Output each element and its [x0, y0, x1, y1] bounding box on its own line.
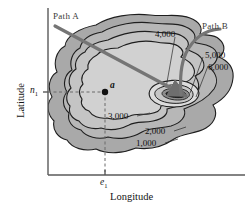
x-axis-title: Longitude [110, 192, 153, 203]
point-a-marker [102, 89, 108, 95]
contour-label-6000: 6,000 [208, 63, 228, 72]
path-a-label: Path A [53, 12, 79, 21]
x-tick-subscript: 1 [104, 182, 107, 189]
point-a-label: a [110, 81, 115, 91]
contour-map-figure: Path A Path B 4,000 5,000 6,000 3,000 2,… [0, 0, 251, 210]
contour-label-1000: 1,000 [136, 139, 156, 148]
contour-label-4000: 4,000 [155, 30, 175, 39]
contour-map-canvas [0, 0, 251, 210]
path-b-label: Path B [202, 22, 228, 31]
contour-label-2000: 2,000 [145, 127, 165, 136]
x-axis-tick-label-e1: e1 [100, 178, 107, 189]
contour-label-3000: 3,000 [108, 112, 128, 121]
contour-bands [48, 14, 233, 152]
y-axis-title: Latitude [16, 83, 27, 118]
y-axis-tick-label-n1: n1 [30, 86, 38, 97]
y-tick-subscript: 1 [35, 90, 38, 97]
contour-label-5000: 5,000 [205, 51, 225, 60]
